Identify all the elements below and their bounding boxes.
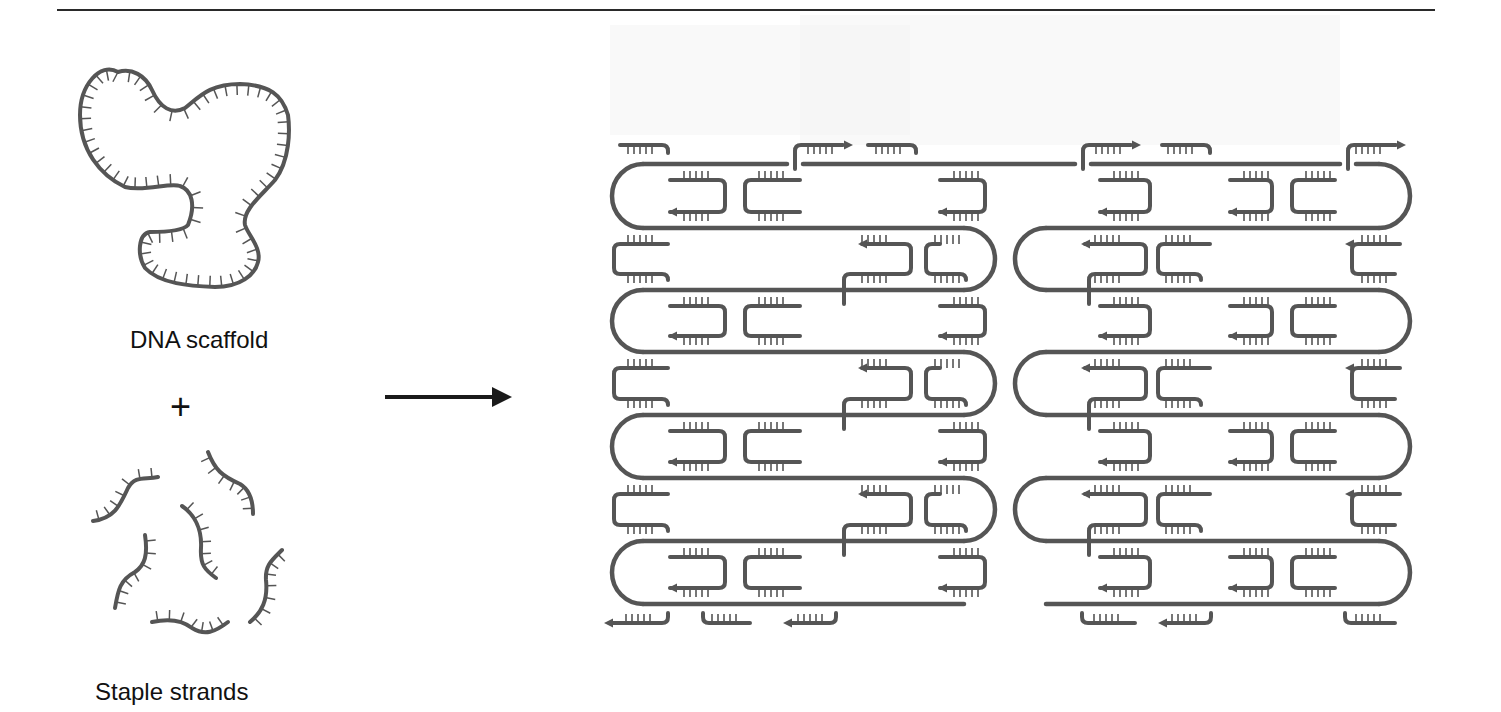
- origami-diagram: [0, 0, 1501, 712]
- plus-sign: +: [170, 386, 191, 428]
- staple-strands-label: Staple strands: [95, 678, 248, 706]
- reaction-arrow-icon: [385, 387, 512, 407]
- dna-scaffold-icon: [80, 70, 289, 287]
- staple-strands-icon: [93, 452, 285, 632]
- dna-origami-structure: [604, 141, 1410, 628]
- dna-scaffold-label: DNA scaffold: [130, 326, 268, 354]
